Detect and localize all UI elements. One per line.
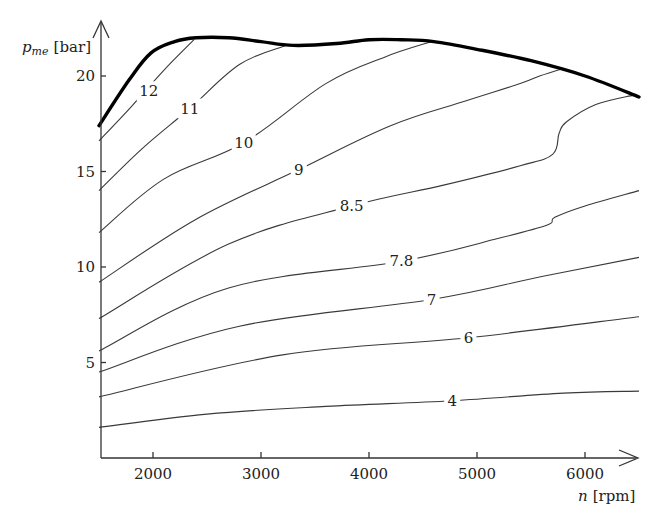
x-tick-label: 5000: [458, 465, 496, 483]
contour-line-4: [99, 391, 639, 427]
x-axis: 20003000400050006000 n[rpm]: [101, 450, 638, 505]
y-axis: 5101520 pme[bar]: [22, 21, 109, 458]
y-tick-label: 5: [85, 354, 95, 372]
x-ticks: 20003000400050006000: [134, 452, 604, 483]
contour-line-7: [99, 257, 639, 372]
contour-line-9: [99, 68, 563, 282]
contour-label-6: 6: [464, 329, 474, 347]
x-tick-label: 2000: [134, 465, 172, 483]
contour-label-7-8: 7.8: [389, 252, 413, 270]
contour-line-6: [99, 317, 639, 397]
contour-label-11: 11: [180, 100, 199, 118]
contour-label-4: 4: [447, 392, 457, 410]
contour-line-10: [99, 42, 432, 233]
contour-label-9: 9: [294, 161, 304, 179]
contour-labels: 12111098.57.8764: [137, 81, 477, 410]
contour-label-10: 10: [234, 134, 253, 152]
y-tick-label: 10: [76, 258, 95, 276]
contour-label-7: 7: [427, 291, 437, 309]
contour-label-12: 12: [139, 82, 158, 100]
x-tick-label: 6000: [566, 465, 604, 483]
contour-label-8-5: 8.5: [340, 197, 364, 215]
y-tick-label: 15: [76, 163, 95, 181]
y-tick-label: 20: [76, 67, 95, 85]
efficiency-map-chart: 12111098.57.8764 5101520 pme[bar] 200030…: [0, 0, 662, 528]
x-tick-label: 3000: [242, 465, 280, 483]
x-tick-label: 4000: [350, 465, 388, 483]
x-axis-title: n[rpm]: [578, 487, 635, 505]
y-axis-title: pme[bar]: [22, 38, 91, 58]
contour-lines: [99, 40, 639, 428]
